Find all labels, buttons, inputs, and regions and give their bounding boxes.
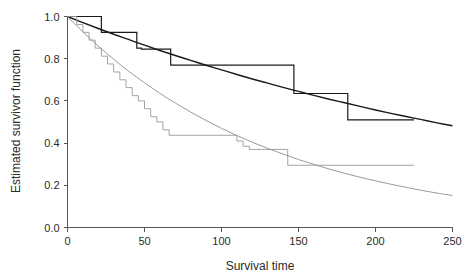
x-tick-label: 100	[212, 235, 230, 247]
series-line	[68, 17, 453, 196]
series-line	[68, 17, 415, 120]
y-tick-label: 1.0	[44, 11, 59, 23]
x-axis-title: Survival time	[226, 259, 295, 273]
y-tick-label: 0.2	[44, 179, 59, 191]
x-tick-label: 150	[289, 235, 307, 247]
data-series-layer	[68, 17, 453, 196]
x-tick-label: 200	[366, 235, 384, 247]
x-axis-ticks: 050100150200250	[64, 228, 461, 247]
y-axis-title: Estimated survivor function	[9, 49, 23, 193]
y-axis-ticks: 0.00.20.40.60.81.0	[44, 11, 67, 234]
y-tick-label: 0.0	[44, 222, 59, 234]
x-tick-label: 250	[443, 235, 461, 247]
x-tick-label: 0	[64, 235, 70, 247]
y-tick-label: 0.8	[44, 53, 59, 65]
survival-plot-figure: 0.00.20.40.60.81.0 050100150200250 Survi…	[0, 0, 474, 277]
y-tick-label: 0.6	[44, 95, 59, 107]
y-tick-label: 0.4	[44, 137, 59, 149]
survivor-function-chart: 0.00.20.40.60.81.0 050100150200250 Survi…	[0, 0, 474, 277]
x-tick-label: 50	[138, 235, 150, 247]
series-line	[68, 17, 415, 166]
